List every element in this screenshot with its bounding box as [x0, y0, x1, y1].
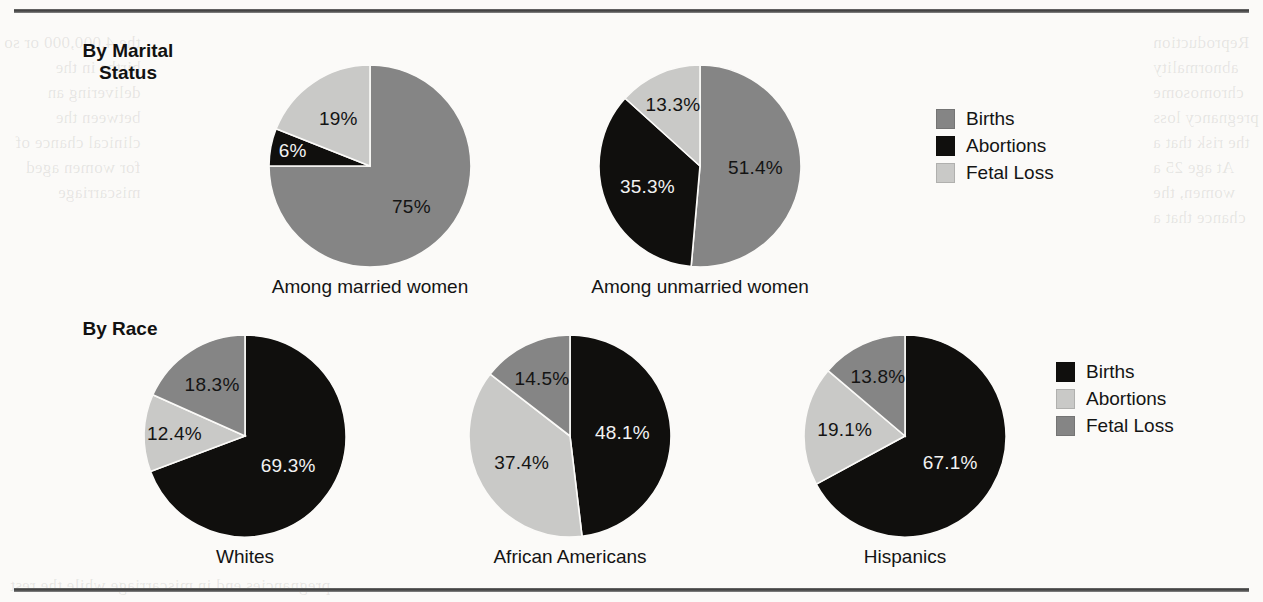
legend-item-label: Fetal Loss	[1086, 415, 1174, 437]
page-bleed-through-right: Reproduction abnormality chromosome preg…	[1153, 30, 1259, 230]
pie-chart: 69.3%12.4%18.3%	[142, 333, 348, 539]
legend-item-fetal-loss: Fetal Loss	[936, 159, 1054, 186]
legend-marital-status: BirthsAbortionsFetal Loss	[936, 105, 1054, 186]
legend-swatch-icon	[936, 136, 955, 156]
figure-top-rule	[14, 9, 1249, 13]
section-heading-marital-status: By Marital Status	[48, 40, 208, 84]
legend-swatch-icon	[936, 109, 955, 129]
legend-race: BirthsAbortionsFetal Loss	[1056, 358, 1174, 439]
pie-chart: 51.4%35.3%13.3%	[597, 63, 803, 269]
pie-chart-caption: Among unmarried women	[591, 276, 809, 298]
legend-item-births: Births	[1056, 358, 1174, 385]
pie-chart-caption: Hispanics	[864, 546, 946, 568]
pie-slice-births	[691, 65, 801, 267]
scanned-page: the 4,000,000 or so births in the delive…	[0, 0, 1263, 602]
legend-item-label: Fetal Loss	[966, 162, 1054, 184]
legend-item-label: Births	[1086, 361, 1135, 383]
legend-swatch-icon	[936, 163, 955, 183]
pie-slice-births	[570, 335, 671, 536]
legend-swatch-icon	[1056, 416, 1075, 436]
legend-item-abortions: Abortions	[936, 132, 1054, 159]
legend-item-label: Abortions	[1086, 388, 1166, 410]
legend-swatch-icon	[1056, 389, 1075, 409]
legend-item-fetal-loss: Fetal Loss	[1056, 412, 1174, 439]
pie-chart: 67.1%19.1%13.8%	[802, 333, 1008, 539]
legend-item-abortions: Abortions	[1056, 385, 1174, 412]
legend-item-label: Births	[966, 108, 1015, 130]
legend-swatch-icon	[1056, 362, 1075, 382]
legend-item-births: Births	[936, 105, 1054, 132]
legend-item-label: Abortions	[966, 135, 1046, 157]
page-bleed-through-bottom: pregnancies end in miscarriage while the…	[10, 573, 330, 598]
pie-chart: 75%6%19%	[267, 63, 473, 269]
figure-bottom-rule	[14, 588, 1249, 592]
pie-chart-caption: Whites	[216, 546, 274, 568]
pie-chart: 48.1%37.4%14.5%	[467, 333, 673, 539]
pie-chart-caption: African Americans	[493, 546, 646, 568]
pie-chart-caption: Among married women	[272, 276, 468, 298]
